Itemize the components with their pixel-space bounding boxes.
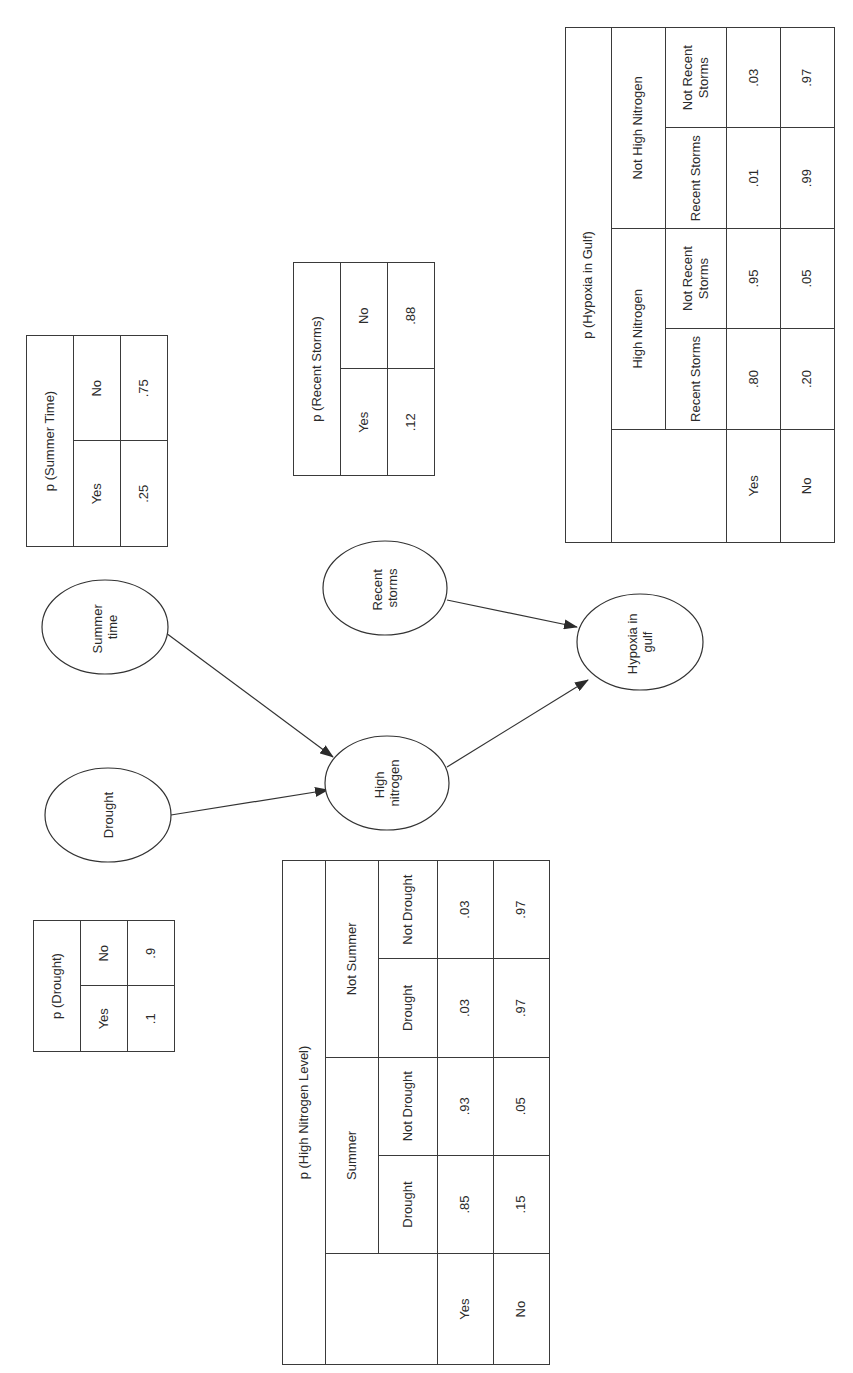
table-summer-time: p (Summer Time) Yes No .25 .75 — [26, 335, 168, 547]
cell: .93 — [437, 1057, 493, 1155]
table-title: p (Hypoxia in Gulf) — [566, 28, 612, 543]
cell: .05 — [781, 228, 835, 328]
table-row: Yes .80 .95 .01 .03 — [727, 28, 781, 543]
subheader: Not Drought — [379, 861, 438, 959]
node-high-nitrogen: High nitrogen — [325, 736, 449, 830]
value-yes: .25 — [121, 441, 168, 547]
node-recent-storms: Recent storms — [323, 541, 447, 635]
table-row: Yes .85 .93 .03 .03 — [437, 861, 493, 1365]
cell: .20 — [781, 329, 835, 429]
edge-summer-to-nitrogen — [166, 633, 333, 757]
edge-storms-to-hypoxia — [447, 600, 577, 627]
value-no: .88 — [388, 263, 435, 370]
cell: .03 — [437, 959, 493, 1057]
cell: .95 — [727, 228, 781, 328]
group-header-high-nitrogen: High Nitrogen — [611, 228, 665, 429]
header-yes: Yes — [341, 369, 388, 476]
group-header-summer: Summer — [325, 1057, 378, 1254]
edge-drought-to-nitrogen — [171, 790, 328, 815]
edge-nitrogen-to-hypoxia — [447, 680, 588, 767]
node-drought: Drought — [45, 768, 171, 862]
header-no: No — [341, 263, 388, 370]
cell: .85 — [437, 1155, 493, 1253]
header-yes: Yes — [74, 441, 121, 547]
subheader: Drought — [379, 959, 438, 1057]
table-row: No .20 .05 .99 .97 — [781, 28, 835, 543]
table-title: p (Recent Storms) — [294, 263, 341, 476]
row-label-yes: Yes — [727, 429, 781, 542]
node-summer-time: Summer time — [42, 580, 168, 674]
cell: .15 — [493, 1155, 549, 1253]
header-no: No — [74, 336, 121, 442]
row-label-no: No — [493, 1254, 549, 1365]
row-label-no: No — [781, 429, 835, 542]
subheader: Not Recent Storms — [665, 28, 727, 128]
subheader: Recent Storms — [665, 329, 727, 429]
cell: .80 — [727, 329, 781, 429]
value-no: .75 — [121, 336, 168, 442]
table-hypoxia-in-gulf: p (Hypoxia in Gulf) High Nitrogen Not Hi… — [565, 27, 835, 543]
table-row: No .15 .05 .97 .97 — [493, 861, 549, 1365]
table-recent-storms: p (Recent Storms) Yes No .12 .88 — [293, 262, 435, 476]
table-title: p (High Nitrogen Level) — [283, 861, 326, 1365]
svg-text:Recent storms: Recent storms — [370, 566, 400, 611]
cell: .97 — [781, 28, 835, 128]
node-hypoxia-in-gulf: Hypoxia in gulf — [577, 594, 703, 690]
cell: .01 — [727, 128, 781, 228]
table-drought: p (Drought) Yes No .1 .9 — [33, 920, 175, 1052]
subheader: Not Recent Storms — [665, 228, 727, 328]
value-yes: .12 — [388, 369, 435, 476]
cell: .03 — [727, 28, 781, 128]
row-label-yes: Yes — [437, 1254, 493, 1365]
svg-text:Drought: Drought — [101, 791, 116, 838]
header-no: No — [81, 921, 128, 987]
subheader: Not Drought — [379, 1057, 438, 1155]
cell: .03 — [437, 861, 493, 959]
cell: .99 — [781, 128, 835, 228]
table-title: p (Summer Time) — [27, 336, 74, 547]
value-no: .9 — [128, 921, 175, 987]
subheader: Recent Storms — [665, 128, 727, 228]
header-yes: Yes — [81, 986, 128, 1052]
table-high-nitrogen: p (High Nitrogen Level) Summer Not Summe… — [282, 860, 550, 1365]
group-header-not-high-nitrogen: Not High Nitrogen — [611, 28, 665, 229]
cell: .97 — [493, 959, 549, 1057]
cell: .97 — [493, 861, 549, 959]
cell: .05 — [493, 1057, 549, 1155]
subheader: Drought — [379, 1155, 438, 1253]
corner-cell — [325, 1254, 437, 1365]
group-header-not-summer: Not Summer — [325, 861, 378, 1058]
table-title: p (Drought) — [34, 921, 81, 1052]
corner-cell — [611, 429, 727, 542]
value-yes: .1 — [128, 986, 175, 1052]
